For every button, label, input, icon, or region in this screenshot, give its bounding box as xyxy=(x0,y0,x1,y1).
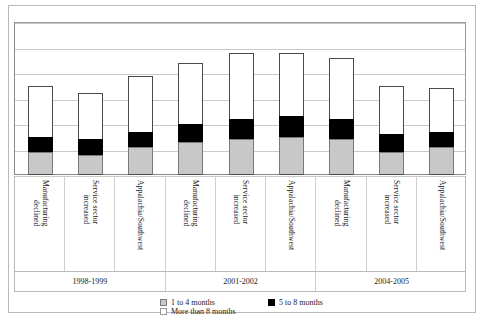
category-axis-label: Manufacturingdeclined xyxy=(332,180,349,226)
bar-segment xyxy=(28,137,53,152)
bar-segment xyxy=(379,134,404,152)
bar-column[interactable] xyxy=(178,63,203,175)
bar-segment xyxy=(329,139,354,175)
plot-area xyxy=(14,22,466,175)
legend-item-more-than-8-months: More than 8 months xyxy=(160,307,236,316)
bar-segment xyxy=(229,139,254,175)
bar-segment xyxy=(429,132,454,147)
legend-label: More than 8 months xyxy=(171,307,236,316)
category-cell: Appalachia/Southwest xyxy=(417,176,467,271)
bar-series-container xyxy=(15,23,465,175)
legend-label: 5 to 8 months xyxy=(279,298,323,307)
bar-segment xyxy=(329,58,354,119)
category-axis-label-line: Manufacturing xyxy=(341,180,350,226)
bar-segment xyxy=(28,86,53,137)
category-axis-label: Appalachia/Southwest xyxy=(286,180,295,250)
bar-segment xyxy=(78,93,103,139)
bar-segment xyxy=(178,63,203,124)
bar-column[interactable] xyxy=(78,93,103,175)
category-axis-label-line: Service sector xyxy=(90,180,99,224)
group-axis-label: 2001-2002 xyxy=(166,272,317,291)
category-axis-label: Service sectorincreased xyxy=(232,180,249,224)
category-axis-label-line: Service sector xyxy=(391,180,400,224)
bar-segment xyxy=(429,147,454,175)
bar-segment xyxy=(279,53,304,117)
bar-column[interactable] xyxy=(128,76,153,175)
bar-segment xyxy=(329,119,354,139)
category-axis-label-line: Manufacturing xyxy=(40,180,49,226)
legend-swatch-icon xyxy=(160,308,167,315)
legend-item-1-to-4-months: 1 to 4 months xyxy=(160,298,215,307)
legend-swatch-icon xyxy=(160,299,167,306)
category-axis-label: Appalachia/Southwest xyxy=(438,180,447,250)
category-axis-label-line: Appalachia/Southwest xyxy=(136,180,145,250)
bar-segment xyxy=(128,147,153,175)
chart-root: ManufacturingdeclinedService sectorincre… xyxy=(0,0,492,329)
category-axis: ManufacturingdeclinedService sectorincre… xyxy=(14,176,466,272)
category-cell: Appalachia/Southwest xyxy=(115,176,165,271)
category-axis-label-line: declined xyxy=(31,180,40,226)
bar-segment xyxy=(379,152,404,175)
category-axis-label-line: declined xyxy=(332,180,341,226)
category-cell: Manufacturingdeclined xyxy=(166,176,216,271)
bar-segment xyxy=(28,152,53,175)
bar-column[interactable] xyxy=(329,58,354,175)
group-axis-label: 1998-1999 xyxy=(15,272,166,291)
category-axis-label: Manufacturingdeclined xyxy=(31,180,48,226)
bar-segment xyxy=(229,119,254,139)
category-axis-label: Appalachia/Southwest xyxy=(136,180,145,250)
category-axis-label: Service sectorincreased xyxy=(383,180,400,224)
bar-segment xyxy=(78,139,103,154)
bar-segment xyxy=(229,53,254,119)
bar-segment xyxy=(379,86,404,134)
bar-segment xyxy=(178,142,203,175)
bar-segment xyxy=(178,124,203,142)
chart-legend: 1 to 4 months More than 8 months 5 to 8 … xyxy=(160,298,410,320)
category-cell: Manufacturingdeclined xyxy=(316,176,366,271)
group-axis: 1998-19992001-20022004-2005 xyxy=(14,272,466,292)
bar-segment xyxy=(429,88,454,131)
category-axis-label: Manufacturingdeclined xyxy=(182,180,199,226)
category-axis-label-line: Manufacturing xyxy=(190,180,199,226)
category-axis-label-line: Service sector xyxy=(240,180,249,224)
bar-segment xyxy=(279,116,304,136)
category-axis-label: Service sectorincreased xyxy=(81,180,98,224)
category-axis-label-line: increased xyxy=(81,180,90,224)
category-cell: Service sectorincreased xyxy=(367,176,417,271)
category-axis-label-line: increased xyxy=(383,180,392,224)
bar-segment xyxy=(78,155,103,175)
bar-column[interactable] xyxy=(429,88,454,175)
bar-segment xyxy=(128,76,153,132)
bar-column[interactable] xyxy=(229,53,254,175)
bar-segment xyxy=(128,132,153,147)
category-cell: Service sectorincreased xyxy=(216,176,266,271)
legend-swatch-icon xyxy=(268,299,275,306)
category-cell: Appalachia/Southwest xyxy=(266,176,316,271)
category-cell: Service sectorincreased xyxy=(65,176,115,271)
bar-column[interactable] xyxy=(379,86,404,175)
bar-column[interactable] xyxy=(28,86,53,175)
legend-item-5-to-8-months: 5 to 8 months xyxy=(268,298,323,307)
bar-column[interactable] xyxy=(279,53,304,175)
category-cell: Manufacturingdeclined xyxy=(15,176,65,271)
bar-segment xyxy=(279,137,304,175)
group-axis-label: 2004-2005 xyxy=(316,272,467,291)
legend-label: 1 to 4 months xyxy=(171,298,215,307)
category-axis-label-line: declined xyxy=(182,180,191,226)
category-axis-label-line: Appalachia/Southwest xyxy=(438,180,447,250)
category-axis-label-line: Appalachia/Southwest xyxy=(286,180,295,250)
